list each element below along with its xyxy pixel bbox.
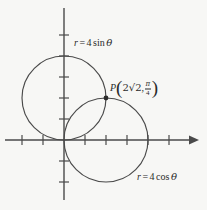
cosine-label-r: r bbox=[137, 171, 141, 182]
point-label-angle-denominator: 4 bbox=[145, 90, 151, 97]
point-label-radius: 2√2 bbox=[122, 83, 141, 93]
x-axis-arrowhead bbox=[189, 135, 199, 144]
polar-curves-figure: r=4sinθ r=4cosθ P(2√2, π 4 ) bbox=[0, 0, 207, 210]
cosine-label-coefficient: 4 bbox=[150, 171, 155, 182]
intersection-point-label: P(2√2, π 4 ) bbox=[110, 80, 158, 97]
point-label-open-paren: ( bbox=[116, 80, 122, 96]
point-label-close-paren: ) bbox=[152, 80, 158, 96]
sine-label-r: r bbox=[74, 37, 78, 48]
sine-curve-label: r=4sinθ bbox=[74, 38, 112, 48]
sine-label-coefficient: 4 bbox=[87, 37, 92, 48]
point-label-angle-numerator: π bbox=[145, 81, 152, 88]
intersection-point-marker bbox=[104, 96, 109, 101]
cosine-label-theta: θ bbox=[171, 171, 177, 182]
sine-label-function: sin bbox=[93, 37, 105, 48]
sine-label-equals: = bbox=[79, 37, 85, 48]
cosine-label-function: cos bbox=[156, 171, 169, 182]
point-label-angle-fraction: π 4 bbox=[145, 81, 152, 98]
cosine-curve-label: r=4cosθ bbox=[137, 172, 177, 182]
sine-label-theta: θ bbox=[106, 37, 112, 48]
cosine-label-equals: = bbox=[142, 171, 148, 182]
